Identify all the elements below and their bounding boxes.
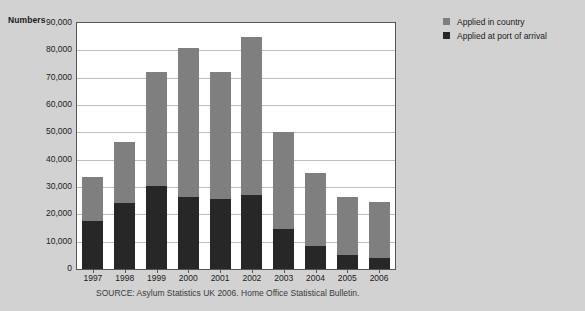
bar-group[interactable] [210, 72, 231, 269]
y-axis-tick-label: 0 [2, 263, 72, 273]
bar-segment[interactable] [369, 202, 390, 258]
legend-item-label: Applied at port of arrival [457, 31, 547, 41]
x-axis-tick-label: 1999 [147, 273, 166, 283]
bar-segment[interactable] [241, 195, 262, 269]
y-axis-tick-labels: 90,00080,00070,00060,00050,00040,00030,0… [0, 22, 72, 268]
bar-group[interactable] [273, 132, 294, 269]
x-axis-tick-label: 2001 [211, 273, 230, 283]
chart-legend: Applied in country Applied at port of ar… [443, 16, 581, 44]
bar-group[interactable] [369, 202, 390, 269]
bar-segment[interactable] [178, 197, 199, 269]
bar-segment[interactable] [337, 255, 358, 269]
square-swatch-icon [443, 18, 450, 25]
bar-segment[interactable] [210, 199, 231, 269]
bar-segment[interactable] [146, 186, 167, 269]
x-axis-tick-label: 2006 [370, 273, 389, 283]
legend-item-applied-in-country[interactable]: Applied in country [443, 16, 581, 27]
bar-group[interactable] [114, 142, 135, 269]
bar-segment[interactable] [210, 72, 231, 199]
asylum-applications-chart-figure: Numbers 90,00080,00070,00060,00050,00040… [0, 0, 585, 311]
bar-segment[interactable] [273, 132, 294, 229]
square-swatch-icon [443, 32, 450, 39]
bar-group[interactable] [241, 37, 262, 269]
bar-segment[interactable] [273, 229, 294, 269]
y-axis-tick-label: 70,000 [2, 72, 72, 82]
bar-group[interactable] [178, 48, 199, 269]
bar-segment[interactable] [305, 173, 326, 245]
source-note: SOURCE: Asylum Statistics UK 2006. Home … [96, 288, 359, 298]
x-axis-tick-label: 2003 [274, 273, 293, 283]
y-axis-tick-label: 30,000 [2, 181, 72, 191]
bar-group[interactable] [82, 177, 103, 269]
legend-item-applied-at-port-of-arrival[interactable]: Applied at port of arrival [443, 30, 581, 41]
x-axis-tick-label: 2000 [179, 273, 198, 283]
bar-group[interactable] [305, 173, 326, 269]
x-axis-tick-label: 1998 [115, 273, 134, 283]
x-axis-tick-label: 2005 [338, 273, 357, 283]
bar-segment[interactable] [337, 197, 358, 256]
bar-segment[interactable] [82, 177, 103, 221]
x-axis-tick-label: 1997 [83, 273, 102, 283]
bar-segment[interactable] [114, 203, 135, 269]
x-axis-tick-label: 2002 [242, 273, 261, 283]
y-axis-tick-label: 10,000 [2, 236, 72, 246]
bar-segment[interactable] [178, 48, 199, 197]
bar-segment[interactable] [114, 142, 135, 204]
bar-segment[interactable] [369, 258, 390, 269]
bar-group[interactable] [146, 72, 167, 269]
y-axis-tick-label: 50,000 [2, 126, 72, 136]
bar-segment[interactable] [241, 37, 262, 196]
bar-segment[interactable] [146, 72, 167, 185]
y-axis-tick-label: 40,000 [2, 154, 72, 164]
bar-segment[interactable] [82, 221, 103, 269]
x-axis-tick-label: 2004 [306, 273, 325, 283]
y-axis-tick-label: 60,000 [2, 99, 72, 109]
y-axis-tick-label: 20,000 [2, 208, 72, 218]
bar-segment[interactable] [305, 246, 326, 269]
y-axis-tick-label: 90,000 [2, 17, 72, 27]
bars-layer [77, 23, 395, 269]
y-axis-tick-label: 80,000 [2, 44, 72, 54]
legend-item-label: Applied in country [457, 17, 525, 27]
x-axis-tick-labels: 1997199819992000200120022003200420052006 [77, 273, 395, 285]
bar-group[interactable] [337, 197, 358, 269]
